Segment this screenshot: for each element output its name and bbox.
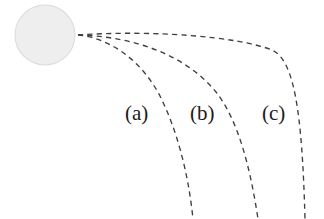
central-body-disc <box>15 5 75 65</box>
trajectory-diagram: (a) (b) (c) <box>0 0 324 219</box>
curve-label-c: (c) <box>262 101 285 125</box>
curve-label-a: (a) <box>125 101 148 125</box>
figure-canvas: (a) (b) (c) <box>0 0 324 219</box>
curve-label-b: (b) <box>190 101 215 125</box>
